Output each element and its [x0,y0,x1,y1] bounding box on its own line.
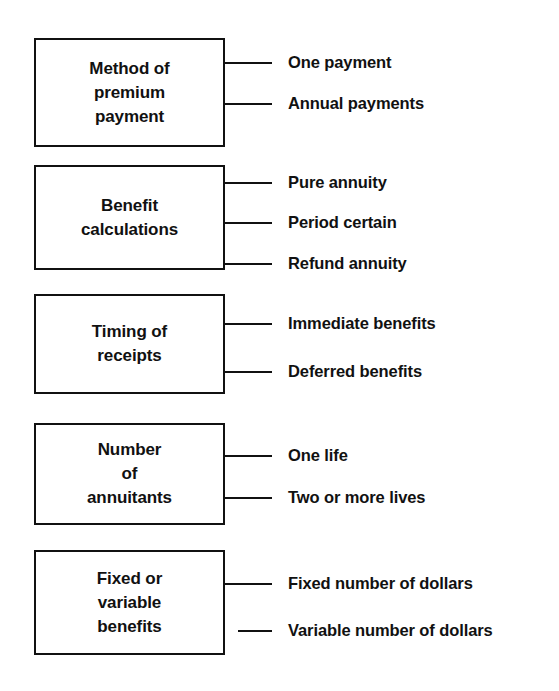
branch-label-one-payment: One payment [288,54,391,71]
category-box-fixed-or-variable-benefits: Fixed or variable benefits [34,550,225,655]
category-box-label: Timing of receipts [86,320,173,368]
connector-line-one-life [225,455,272,457]
connector-line-variable-number-of-dollars [238,630,272,632]
category-box-timing-of-receipts: Timing of receipts [34,294,225,394]
branch-label-one-life: One life [288,447,348,464]
branch-label-refund-annuity: Refund annuity [288,255,407,272]
branch-label-immediate-benefits: Immediate benefits [288,315,436,332]
annuity-classification-diagram: Method of premium paymentOne paymentAnnu… [0,0,559,691]
category-box-label: Benefit calculations [75,194,184,242]
category-box-label: Fixed or variable benefits [91,567,168,639]
connector-line-fixed-number-of-dollars [225,583,272,585]
category-box-label: Method of premium payment [83,57,175,129]
connector-line-annual-payments [225,103,272,105]
connector-line-deferred-benefits [225,371,272,373]
branch-label-period-certain: Period certain [288,214,397,231]
connector-line-pure-annuity [225,182,272,184]
connector-line-immediate-benefits [225,323,272,325]
connector-line-period-certain [225,222,272,224]
branch-label-fixed-number-of-dollars: Fixed number of dollars [288,575,473,592]
branch-label-annual-payments: Annual payments [288,95,424,112]
branch-label-variable-number-of-dollars: Variable number of dollars [288,622,493,639]
connector-line-refund-annuity [225,263,272,265]
branch-label-two-or-more-lives: Two or more lives [288,489,425,506]
category-box-method-of-premium-payment: Method of premium payment [34,38,225,147]
connector-line-one-payment [225,62,272,64]
branch-label-deferred-benefits: Deferred benefits [288,363,422,380]
connector-line-two-or-more-lives [225,497,272,499]
branch-label-pure-annuity: Pure annuity [288,174,387,191]
category-box-benefit-calculations: Benefit calculations [34,165,225,270]
category-box-number-of-annuitants: Number of annuitants [34,423,225,525]
category-box-label: Number of annuitants [81,438,178,510]
